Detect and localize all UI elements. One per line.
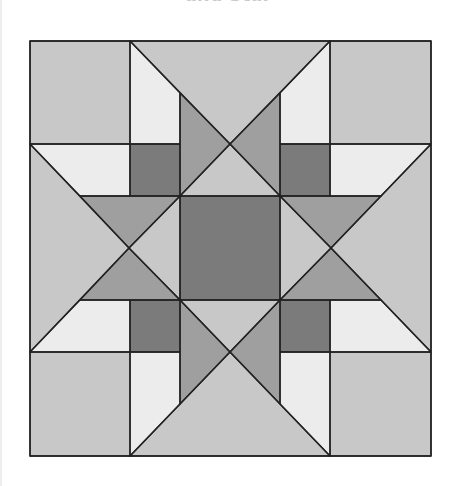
quilt-piece-corner-bottom-left [30, 352, 130, 456]
quilt-piece-dark-square-top-left [130, 144, 180, 196]
quilt-piece-corner-bottom-right [330, 352, 431, 456]
quilt-piece-corner-top-right [330, 41, 431, 144]
quilt-piece-dark-square-bottom-left [130, 300, 180, 352]
quilt-piece-center-square [180, 196, 280, 300]
quilt-pieces [30, 41, 431, 456]
quilt-piece-corner-top-left [30, 41, 130, 144]
quilt-piece-dark-square-bottom-right [280, 300, 330, 352]
quilt-piece-dark-square-top-right [280, 144, 330, 196]
quilt-block-diagram [0, 0, 456, 486]
